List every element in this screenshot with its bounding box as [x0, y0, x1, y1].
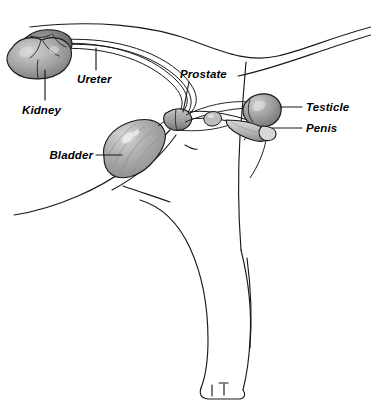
back-topline-path	[30, 24, 371, 58]
body-outline	[14, 24, 371, 399]
hindleg-crease-path	[247, 258, 251, 348]
penis-group	[226, 120, 276, 178]
label-bladder: Bladder	[49, 149, 93, 161]
belly-tick-path	[185, 145, 197, 149]
anatomy-illustration: Kidney Ureter Bladder Prostate Testicle …	[0, 0, 371, 413]
hindleg-front-path	[140, 200, 208, 388]
bladder-group	[104, 118, 173, 178]
label-ureter: Ureter	[77, 73, 112, 85]
label-testicle: Testicle	[306, 101, 350, 113]
kidney-group	[7, 30, 72, 79]
bulb-highlight	[208, 114, 215, 118]
hindquarter-front-path	[239, 62, 246, 250]
label-kidney: Kidney	[22, 104, 61, 116]
label-prostate: Prostate	[180, 68, 227, 80]
label-penis: Penis	[306, 122, 337, 134]
thigh-far-path	[123, 186, 170, 202]
prepuce-path	[250, 140, 266, 178]
paw-outline-path	[200, 388, 244, 399]
prostate-shape	[164, 109, 192, 131]
diagram-canvas: Kidney Ureter Bladder Prostate Testicle …	[0, 0, 371, 413]
kidney-ventral-shape	[7, 38, 72, 79]
rump-curve-path	[238, 35, 371, 76]
bulbourethral-bulb-shape	[204, 112, 222, 126]
